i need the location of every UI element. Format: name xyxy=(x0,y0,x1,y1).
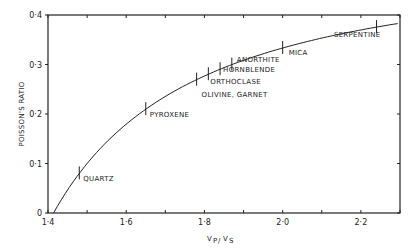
svg-text:P: P xyxy=(213,237,218,245)
y-tick-label: 0·1 xyxy=(29,160,42,169)
y-tick-label: 0 xyxy=(37,209,42,218)
y-axis-label: POISSON'S RATIO xyxy=(18,81,26,146)
mineral-label: OLIVINE, GARNET xyxy=(202,91,268,99)
data-curve xyxy=(54,24,398,214)
x-tick-label: 2·0 xyxy=(276,218,289,227)
mineral-label: PYROXENE xyxy=(150,111,190,119)
y-tick-label: 0·3 xyxy=(29,61,42,70)
x-axis-label: V P / V S xyxy=(207,235,234,245)
mineral-label: ANORTHITE xyxy=(237,56,280,64)
svg-text:V: V xyxy=(207,235,212,243)
mineral-label: SERPENTINE xyxy=(334,31,381,39)
svg-text:V: V xyxy=(223,235,228,243)
svg-text:S: S xyxy=(229,237,234,245)
x-tick-label: 1·6 xyxy=(120,218,133,227)
mineral-label: ORTHOCLASE xyxy=(210,78,261,86)
x-tick-label: 1·8 xyxy=(198,218,211,227)
mineral-label: MICA xyxy=(289,49,308,57)
svg-text:/: / xyxy=(218,237,221,245)
x-tick-label: 2·2 xyxy=(355,218,368,227)
x-tick-label: 1·4 xyxy=(42,218,55,227)
y-tick-label: 0·2 xyxy=(29,110,42,119)
y-axis: 00·10·20·30·4 xyxy=(29,11,400,218)
mineral-label: HORNBLENDE xyxy=(223,66,275,74)
mineral-label: QUARTZ xyxy=(83,175,114,183)
y-tick-label: 0·4 xyxy=(29,11,42,20)
chart: 1·41·61·82·02·2 00·10·20·30·4 QUARTZPYRO… xyxy=(0,0,409,252)
x-axis: 1·41·61·82·02·2 xyxy=(42,15,400,227)
mineral-annotations: QUARTZPYROXENEOLIVINE, GARNETORTHOCLASEH… xyxy=(79,20,380,183)
